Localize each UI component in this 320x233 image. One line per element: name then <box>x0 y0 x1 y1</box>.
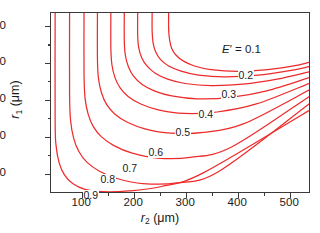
y-tick-300 <box>45 100 51 101</box>
contour-label-0-4: 0.4 <box>198 109 214 120</box>
contour-label-0-7: 0.7 <box>122 163 138 174</box>
y-tick-label-300: 300 <box>0 93 6 105</box>
contour-label-0-6: 0.6 <box>148 147 164 158</box>
y-axis-var: r <box>8 115 22 119</box>
x-tick-label-400: 400 <box>215 197 259 209</box>
y-axis-title: r1 (μm) <box>8 40 23 160</box>
x-tick-minor-450 <box>264 192 265 196</box>
y-tick-label-100: 100 <box>0 167 6 179</box>
x-tick-minor-150 <box>108 192 109 196</box>
contour-line-0-7 <box>84 13 309 159</box>
y-tick-100 <box>45 174 51 175</box>
y-tick-minor-150 <box>48 155 52 156</box>
contour-value-0-1: 0.1 <box>245 43 261 55</box>
contour-label-0-8: 0.8 <box>100 174 116 185</box>
x-tick-label-500: 500 <box>267 197 311 209</box>
y-tick-minor-250 <box>48 118 52 119</box>
figure-contour-plot: E′ = 0.1 0.2 0.3 0.4 0.5 0.6 0.7 0.8 0.9… <box>0 0 320 233</box>
x-tick-label-100: 100 <box>59 197 103 209</box>
y-tick-500 <box>45 26 51 27</box>
y-tick-minor-450 <box>48 44 52 45</box>
contour-line-0-9 <box>55 13 309 192</box>
x-axis-unit: (μm) <box>150 211 179 225</box>
y-axis-sub: 1 <box>14 110 24 115</box>
y-tick-label-400: 400 <box>0 56 6 68</box>
equals-symbol: = <box>232 43 245 55</box>
x-tick-minor-350 <box>212 192 213 196</box>
x-tick-minor-250 <box>160 192 161 196</box>
contour-label-series-title: E′ = 0.1 <box>221 44 262 56</box>
contour-lines-group <box>51 13 309 192</box>
y-tick-label-200: 200 <box>0 130 6 142</box>
contour-label-0-3: 0.3 <box>221 89 237 100</box>
y-tick-400 <box>45 63 51 64</box>
y-axis-unit: (μm) <box>8 80 22 109</box>
y-tick-200 <box>45 137 51 138</box>
E-symbol: E <box>222 43 230 55</box>
x-tick-label-200: 200 <box>111 197 155 209</box>
y-tick-label-500: 500 <box>0 20 6 32</box>
contour-label-0-2: 0.2 <box>238 70 254 81</box>
plot-area: E′ = 0.1 0.2 0.3 0.4 0.5 0.6 0.7 0.8 0.9 <box>50 12 310 193</box>
x-axis-title: r2 (μm) <box>0 211 320 226</box>
x-tick-label-300: 300 <box>163 197 207 209</box>
y-tick-minor-350 <box>48 81 52 82</box>
contour-label-0-5: 0.5 <box>175 127 191 138</box>
